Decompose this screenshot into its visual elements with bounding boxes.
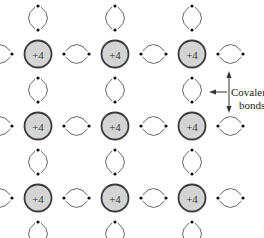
electron-dot [10, 52, 13, 55]
silicon-atom: +4 [179, 185, 206, 212]
electron-dot [164, 124, 167, 127]
electron-dot [190, 100, 193, 103]
covalent-bond [139, 117, 167, 136]
covalent-bond [29, 4, 48, 31]
electron-dot [241, 124, 244, 127]
atom-charge-label: +4 [186, 121, 198, 133]
electron-dot [113, 220, 116, 223]
electron-dot [190, 148, 193, 151]
electron-dot [36, 172, 39, 175]
atom-charge-label: +4 [186, 193, 198, 205]
covalent-bond [216, 117, 244, 136]
electron-dot [190, 76, 193, 79]
atoms: +4+4+4+4+4+4+4+4+4 [25, 41, 206, 212]
electron-dot [241, 52, 244, 55]
electron-dot [164, 196, 167, 199]
annotation-line-2: bonds [239, 99, 264, 111]
silicon-atom: +4 [25, 113, 52, 140]
atom-charge-label: +4 [109, 121, 121, 133]
silicon-atom: +4 [25, 41, 52, 68]
atom-charge-label: +4 [109, 49, 121, 61]
annotation-line-1: Covalent [231, 86, 264, 98]
covalent-bond [29, 148, 48, 175]
covalent-bond [183, 220, 202, 238]
atom-charge-label: +4 [186, 49, 198, 61]
electron-dot [62, 124, 65, 127]
arrow-left-icon [209, 90, 216, 95]
covalent-bond [216, 189, 244, 208]
atom-charge-label: +4 [32, 121, 44, 133]
covalent-bond [183, 4, 202, 31]
electron-dot [164, 52, 167, 55]
atom-charge-label: +4 [109, 193, 121, 205]
electron-dot [190, 28, 193, 31]
electron-dot [190, 4, 193, 7]
atom-charge-label: +4 [32, 49, 44, 61]
covalent-bond [216, 45, 244, 64]
electron-dot [139, 124, 142, 127]
arrow-down-icon [227, 106, 232, 113]
electron-dot [113, 172, 116, 175]
covalent-bond [62, 45, 90, 64]
atom-charge-label: +4 [32, 193, 44, 205]
electron-dot [113, 76, 116, 79]
covalent-bond [29, 76, 48, 103]
silicon-atom: +4 [102, 185, 129, 212]
covalent-bond [29, 220, 48, 238]
covalent-bond [106, 148, 125, 175]
electron-dot [10, 124, 13, 127]
electron-dot [216, 124, 219, 127]
electron-dot [139, 196, 142, 199]
electron-dot [36, 220, 39, 223]
electron-dot [87, 52, 90, 55]
silicon-atom: +4 [102, 41, 129, 68]
covalent-bond [139, 45, 167, 64]
covalent-bond [106, 220, 125, 238]
covalent-bond [0, 117, 14, 136]
covalent-bond [139, 189, 167, 208]
electron-dot [113, 4, 116, 7]
silicon-atom: +4 [179, 41, 206, 68]
covalent-bond [183, 148, 202, 175]
silicon-atom: +4 [25, 185, 52, 212]
silicon-atom: +4 [179, 113, 206, 140]
electron-dot [190, 172, 193, 175]
electron-dot [36, 76, 39, 79]
electron-dot [241, 196, 244, 199]
covalent-bond [62, 189, 90, 208]
electron-dot [113, 28, 116, 31]
electron-dot [36, 148, 39, 151]
electron-dot [113, 100, 116, 103]
electron-dot [87, 196, 90, 199]
electron-dot [87, 124, 90, 127]
covalent-bond [183, 76, 202, 103]
crystal-lattice-diagram: +4+4+4+4+4+4+4+4+4 Covalent bonds [0, 0, 264, 238]
electron-dot [36, 28, 39, 31]
electron-dot [36, 4, 39, 7]
silicon-atom: +4 [102, 113, 129, 140]
electron-dot [62, 52, 65, 55]
covalent-bond [62, 117, 90, 136]
electron-dot [36, 100, 39, 103]
covalent-bond [106, 4, 125, 31]
electron-dot [190, 220, 193, 223]
arrow-up-icon [227, 71, 232, 78]
electron-dot [62, 196, 65, 199]
electron-dot [216, 52, 219, 55]
covalent-bond [0, 189, 14, 208]
covalent-bond [106, 76, 125, 103]
electron-dot [10, 196, 13, 199]
electron-dot [113, 148, 116, 151]
electron-dot [139, 52, 142, 55]
covalent-bond [0, 45, 14, 64]
covalent-bonds-annotation: Covalent bonds [209, 71, 264, 113]
electron-dot [216, 196, 219, 199]
